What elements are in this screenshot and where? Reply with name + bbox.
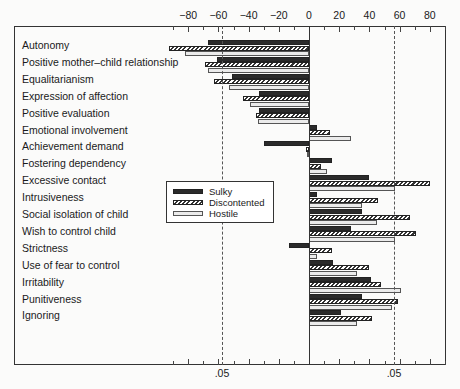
category-label: Wish to control child xyxy=(22,225,116,237)
legend-item-discontented: Discontented xyxy=(173,197,264,208)
x-tick-label: 0 xyxy=(306,9,312,21)
bar-sulky xyxy=(217,57,309,62)
bar-discontented xyxy=(256,113,309,118)
x-tick-label: 60 xyxy=(394,9,406,21)
bar-hostile xyxy=(309,136,351,141)
x-tick-mark xyxy=(415,26,416,30)
x-tick-label: −40 xyxy=(240,9,258,21)
category-label: Intrusiveness xyxy=(22,191,84,203)
x-tick-mark xyxy=(279,26,280,32)
x-tick-mark xyxy=(324,361,325,365)
significance-line xyxy=(394,26,395,365)
x-tick-mark xyxy=(234,361,235,365)
x-tick-mark xyxy=(173,26,174,30)
x-tick-mark xyxy=(203,26,204,30)
bar-hostile xyxy=(208,68,309,73)
bar-discontented xyxy=(214,79,309,84)
x-tick-mark xyxy=(400,359,401,365)
bar-discontented xyxy=(309,181,430,186)
legend-label: Discontented xyxy=(209,197,264,208)
category-label: Equalitarianism xyxy=(22,73,94,85)
x-tick-mark xyxy=(294,26,295,30)
x-tick-mark xyxy=(173,361,174,365)
bar-sulky xyxy=(289,243,309,248)
bar-discontented xyxy=(169,46,309,51)
x-tick-mark xyxy=(203,361,204,365)
significance-label-left: .05 xyxy=(215,367,230,379)
bar-discontented xyxy=(309,164,321,169)
legend-label: Hostile xyxy=(209,208,238,219)
x-tick-label: −20 xyxy=(270,9,288,21)
category-label: Fostering dependency xyxy=(22,157,126,169)
bar-discontented xyxy=(309,130,330,135)
bar-hostile xyxy=(309,321,357,326)
sulky-swatch xyxy=(173,189,203,194)
bar-sulky xyxy=(208,40,309,45)
bar-sulky xyxy=(309,294,362,299)
significance-label-right: .05 xyxy=(387,367,402,379)
x-tick-mark xyxy=(430,359,431,365)
x-tick-mark xyxy=(339,26,340,32)
x-tick-mark xyxy=(294,361,295,365)
legend-item-hostile: Hostile xyxy=(173,208,238,219)
x-tick-mark xyxy=(385,361,386,365)
bar-hostile xyxy=(309,203,362,208)
bar-hostile xyxy=(309,305,392,310)
bar-sulky xyxy=(309,125,317,130)
bar-sulky xyxy=(309,158,332,163)
bar-hostile xyxy=(229,85,309,90)
bar-sulky xyxy=(309,226,351,231)
bar-chart: −80−60−40−20020406080 AutonomyPositive m… xyxy=(0,0,460,389)
bar-sulky xyxy=(309,192,317,197)
category-label: Excessive contact xyxy=(22,174,106,186)
category-label: Irritability xyxy=(22,276,64,288)
discontented-swatch xyxy=(173,200,203,205)
bar-hostile xyxy=(185,51,309,56)
bar-sulky xyxy=(309,260,333,265)
x-tick-mark xyxy=(430,26,431,32)
bar-sulky xyxy=(309,277,371,282)
x-tick-mark xyxy=(218,359,219,365)
legend-label: Sulky xyxy=(209,186,232,197)
category-label: Positive mother–child relationship xyxy=(22,56,178,68)
bar-sulky xyxy=(309,209,362,214)
bar-discontented xyxy=(309,282,381,287)
x-tick-mark xyxy=(188,26,189,32)
bar-discontented xyxy=(309,299,398,304)
category-label: Autonomy xyxy=(22,39,69,51)
bar-hostile xyxy=(309,288,401,293)
bar-sulky xyxy=(259,108,309,113)
bar-sulky xyxy=(264,141,309,146)
category-label: Emotional involvement xyxy=(22,124,128,136)
x-tick-mark xyxy=(445,26,446,30)
bar-discontented xyxy=(309,265,369,270)
legend: Sulky Discontented Hostile xyxy=(166,181,274,223)
bar-hostile xyxy=(309,186,395,191)
bar-hostile xyxy=(258,119,309,124)
category-label: Use of fear to control xyxy=(22,259,119,271)
bar-hostile xyxy=(250,102,309,107)
x-tick-mark xyxy=(385,26,386,30)
bar-discontented xyxy=(205,62,309,67)
bar-discontented xyxy=(309,231,416,236)
x-tick-mark xyxy=(234,26,235,30)
x-tick-mark xyxy=(354,26,355,30)
x-tick-mark xyxy=(218,26,219,32)
bar-hostile xyxy=(309,254,317,259)
bar-sulky xyxy=(232,74,309,79)
x-tick-mark xyxy=(369,26,370,32)
bar-discontented xyxy=(309,316,372,321)
bar-hostile xyxy=(309,169,327,174)
x-tick-label: 80 xyxy=(424,9,436,21)
legend-item-sulky: Sulky xyxy=(173,186,232,197)
x-tick-mark xyxy=(445,361,446,365)
hostile-swatch xyxy=(173,211,203,216)
x-tick-label: −80 xyxy=(179,9,197,21)
category-label: Positive evaluation xyxy=(22,107,110,119)
bar-hostile xyxy=(309,220,377,225)
x-tick-mark xyxy=(264,361,265,365)
x-tick-mark xyxy=(249,26,250,32)
bar-sulky xyxy=(259,91,309,96)
bar-sulky xyxy=(309,310,341,315)
bar-discontented xyxy=(309,198,378,203)
